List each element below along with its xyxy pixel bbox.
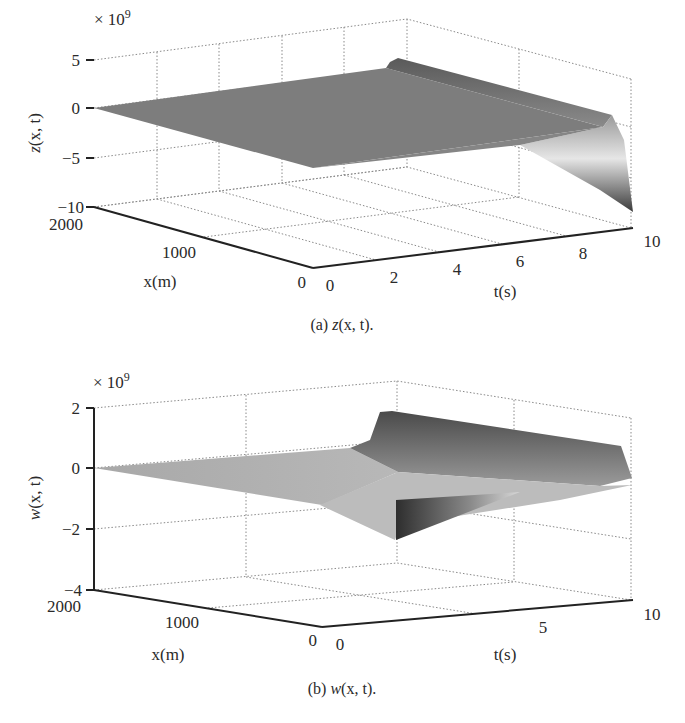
plot-a: 5 0 −5 −10 × 109 z(x, t) 2000 1000 0 x(m…: [25, 7, 661, 334]
plot-a-multiplier: × 109: [94, 7, 131, 29]
t-tick: 6: [516, 252, 525, 271]
plot-a-zlabel: z(x, t): [25, 113, 44, 154]
x-tick: 2000: [49, 215, 83, 234]
plot-a-z-ticks: 5 0 −5 −10: [57, 51, 84, 217]
plot-b-caption: (b) w(x, t).: [308, 680, 376, 698]
t-tick: 0: [326, 276, 335, 295]
z-tick: −5: [62, 149, 80, 168]
x-tick: 2000: [47, 597, 81, 616]
plot-b-zlabel: w(x, t): [25, 476, 44, 520]
t-tick: 10: [644, 232, 661, 251]
plot-a-x-ticks: 2000 1000 0: [49, 215, 306, 292]
plot-b-surface: [94, 411, 632, 540]
plot-b-xlabel: x(m): [151, 645, 184, 664]
plot-b-multiplier: × 109: [93, 370, 130, 392]
z-tick: −2: [62, 520, 80, 539]
plot-a-xlabel: x(m): [143, 272, 176, 291]
t-tick: 0: [336, 635, 345, 654]
plot-a-caption: (a) z(x, t).: [310, 316, 373, 334]
figure: 5 0 −5 −10 × 109 z(x, t) 2000 1000 0 x(m…: [0, 0, 685, 723]
x-tick: 0: [309, 631, 318, 650]
x-tick: 0: [298, 273, 307, 292]
t-tick: 10: [644, 605, 661, 624]
plot-b-tlabel: t(s): [494, 645, 517, 664]
plot-b: 2 0 −2 −4 × 109 w(x, t) 2000 1000 0 x(m)…: [25, 370, 661, 698]
plot-b-z-ticks: 2 0 −2 −4: [62, 399, 83, 600]
z-tick: 2: [72, 399, 81, 418]
z-tick: 5: [72, 51, 81, 70]
t-tick: 5: [539, 618, 548, 637]
z-tick: 0: [72, 99, 81, 118]
plot-a-tlabel: t(s): [494, 282, 517, 301]
t-tick: 2: [390, 268, 399, 287]
x-tick: 1000: [165, 613, 199, 632]
t-tick: 8: [579, 244, 588, 263]
t-tick: 4: [453, 260, 462, 279]
x-tick: 1000: [162, 243, 196, 262]
z-tick: 0: [72, 459, 81, 478]
plot-a-surface: [94, 58, 633, 212]
